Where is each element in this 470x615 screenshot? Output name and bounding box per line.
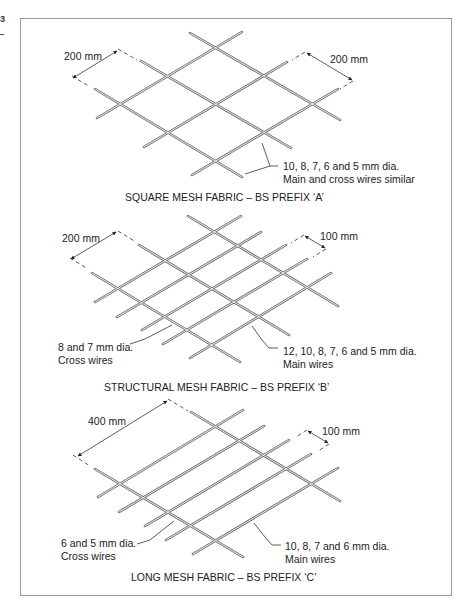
note-b-main-line1: 12, 10, 8, 7, 6 and 5 mm dia. (283, 345, 417, 357)
dim-label-c-left: 400 mm (88, 415, 126, 427)
note-b-cross-line2: Cross wires (58, 354, 113, 366)
note-c-cross-line1: 6 and 5 mm dia. (61, 537, 136, 549)
note-a-line2: Main and cross wires similar (283, 173, 415, 185)
dimension-lines-b (70, 231, 326, 348)
dim-label-a-left: 200 mm (64, 50, 102, 62)
dim-label-c-right: 100 mm (322, 425, 360, 437)
note-c-main-line2: Main wires (285, 553, 335, 565)
dimension-lines-a (72, 49, 353, 174)
dim-label-b-left: 200 mm (62, 232, 100, 244)
panel-square-mesh (95, 32, 340, 177)
note-b-main-line2: Main wires (283, 358, 333, 370)
dim-label-a-right: 200 mm (330, 53, 368, 65)
note-c-main-line1: 10, 8, 7 and 6 mm dia. (285, 540, 389, 552)
caption-c: LONG MESH FABRIC – BS PREFIX ‘C’ (131, 571, 317, 583)
caption-a: SQUARE MESH FABRIC – BS PREFIX ‘A’ (125, 191, 324, 203)
dim-label-b-right: 100 mm (320, 230, 358, 242)
mesh-fabric-diagram: 200 mm 200 mm 10, 8, 7, 6 and 5 mm dia. … (0, 0, 470, 615)
note-a-line1: 10, 8, 7, 6 and 5 mm dia. (283, 160, 399, 172)
note-b-cross-line1: 8 and 7 mm dia. (58, 341, 133, 353)
caption-b: STRUCTURAL MESH FABRIC – BS PREFIX ‘B’ (104, 381, 329, 393)
panel-long-mesh (95, 410, 340, 557)
note-c-cross-line2: Cross wires (61, 550, 116, 562)
